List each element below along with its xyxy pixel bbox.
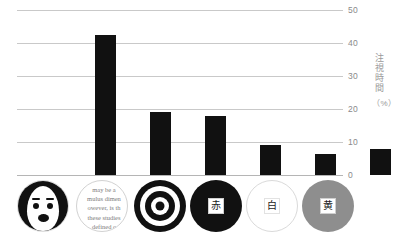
ytick-label-40: 40 <box>348 39 358 48</box>
bar-white-disc <box>315 154 336 175</box>
face-eye-left <box>33 203 39 209</box>
bar-chart-figure: 50 40 30 20 10 0 注視時間 （%） may be a mulus… <box>0 0 408 236</box>
bullseye-icon <box>134 180 186 232</box>
face-icon <box>17 180 69 232</box>
category-face <box>17 180 71 234</box>
ytick-label-0: 0 <box>348 171 353 180</box>
gridline-50 <box>17 10 343 11</box>
category-scrambled-face: may be a mulus dimen owever, is th these… <box>76 180 130 234</box>
category-red-disc: 赤 <box>190 180 244 234</box>
yellow-kanji-label: 黄 <box>320 198 336 214</box>
gridline-30 <box>17 76 343 77</box>
face-skin <box>27 186 59 231</box>
face-brow-right <box>46 198 54 200</box>
plot-area <box>17 10 343 175</box>
y-axis-title: 注視時間 （%） <box>372 53 388 109</box>
ytick-label-50: 50 <box>348 6 358 15</box>
bar-red-disc <box>260 145 281 175</box>
red-kanji-label: 赤 <box>208 198 224 214</box>
bar-scrambled-face <box>150 112 171 175</box>
ytick-label-30: 30 <box>348 72 358 81</box>
category-icon-row: may be a mulus dimen owever, is th these… <box>0 180 408 236</box>
red-disc-icon: 赤 <box>190 180 242 232</box>
bar-yellow-disc <box>370 149 391 175</box>
bullseye-ring-5 <box>156 202 165 211</box>
white-disc-icon: 白 <box>246 180 298 232</box>
bar-face <box>95 35 116 175</box>
scrambled-face-icon: may be a mulus dimen owever, is th these… <box>76 180 128 232</box>
bar-bullseye <box>205 116 226 175</box>
gridline-40 <box>17 43 343 44</box>
ghost-text: may be a mulus dimen owever, is th these… <box>76 185 128 231</box>
category-yellow-disc: 黄 <box>302 180 356 234</box>
y-axis-title-text: 注視時間 <box>375 53 385 93</box>
face-brow-left <box>32 198 40 200</box>
category-white-disc: 白 <box>246 180 300 234</box>
ytick-label-20: 20 <box>348 105 358 114</box>
gridline-20 <box>17 109 343 110</box>
ytick-label-10: 10 <box>348 138 358 147</box>
gridline-10 <box>17 142 343 143</box>
gridline-0 <box>17 175 343 176</box>
yellow-disc-icon: 黄 <box>302 180 354 232</box>
face-eye-right <box>47 203 53 209</box>
category-bullseye <box>134 180 188 234</box>
white-kanji-label: 白 <box>264 198 280 214</box>
y-axis-unit-text: （%） <box>372 100 388 109</box>
face-mouth <box>38 214 49 222</box>
